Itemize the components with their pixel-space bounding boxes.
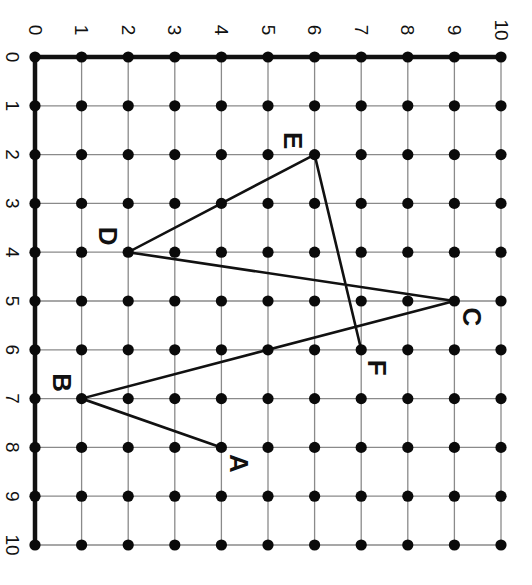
x-tick-label: 7: [2, 393, 23, 404]
grid-dot: [216, 149, 227, 160]
y-tick-label: 1: [71, 25, 92, 36]
grid-dot: [123, 491, 134, 502]
grid-dot: [29, 344, 40, 355]
grid-dot: [216, 539, 227, 550]
grid-dot: [495, 149, 506, 160]
x-tick-label: 8: [2, 442, 23, 453]
grid-dot: [216, 344, 227, 355]
grid-dot: [29, 442, 40, 453]
grid-dot: [123, 393, 134, 404]
grid-dot: [495, 344, 506, 355]
grid-dot: [123, 539, 134, 550]
point-label-a: A: [224, 454, 254, 473]
grid-dot: [262, 539, 273, 550]
grid-dot: [169, 295, 180, 306]
grid-dot: [402, 295, 413, 306]
y-tick-label: 6: [304, 25, 325, 36]
y-tick-label: 2: [118, 25, 139, 36]
grid-dot: [262, 491, 273, 502]
grid-dot: [402, 344, 413, 355]
grid-dot: [495, 247, 506, 258]
grid-dot: [495, 198, 506, 209]
point-label-d: D: [93, 227, 123, 246]
x-tick-label: 10: [2, 534, 23, 555]
coordinate-grid-diagram: 012345678910012345678910 ABCDEF: [0, 0, 532, 585]
grid-dot: [169, 149, 180, 160]
grid-dot: [216, 247, 227, 258]
grid-dot: [262, 149, 273, 160]
grid-dot: [356, 295, 367, 306]
grid-dot: [449, 344, 460, 355]
grid-dot: [262, 247, 273, 258]
grid-dot: [402, 149, 413, 160]
grid-dot: [169, 198, 180, 209]
grid-dot: [402, 100, 413, 111]
grid-dot: [76, 149, 87, 160]
grid-dot: [449, 51, 460, 62]
point-label-e: E: [278, 132, 308, 149]
grid-canvas: 012345678910012345678910 ABCDEF: [0, 0, 532, 585]
x-tick-label: 6: [2, 345, 23, 356]
grid-dot: [216, 491, 227, 502]
grid-dot: [449, 149, 460, 160]
y-tick-label: 8: [397, 25, 418, 36]
grid-dot: [449, 442, 460, 453]
x-tick-label: 2: [2, 149, 23, 160]
grid-dot: [495, 539, 506, 550]
grid-dot: [123, 198, 134, 209]
grid-dot: [169, 442, 180, 453]
grid-dot: [76, 491, 87, 502]
grid-dot: [449, 247, 460, 258]
grid-dot: [449, 491, 460, 502]
grid-dot: [449, 393, 460, 404]
grid-dot: [29, 393, 40, 404]
grid-dot: [402, 442, 413, 453]
grid-dot: [356, 149, 367, 160]
grid-dot: [123, 344, 134, 355]
grid-dot: [76, 51, 87, 62]
grid-dot: [123, 442, 134, 453]
grid-dot: [76, 344, 87, 355]
grid-dot: [495, 100, 506, 111]
y-tick-label: 7: [351, 25, 372, 36]
y-tick-label: 5: [258, 25, 279, 36]
grid-dot: [402, 198, 413, 209]
y-tick-label: 3: [164, 25, 185, 36]
grid-dot: [402, 51, 413, 62]
grid-dot: [495, 442, 506, 453]
grid-dot: [29, 247, 40, 258]
x-tick-label: 0: [2, 52, 23, 63]
grid-dot: [495, 491, 506, 502]
grid-dot: [29, 539, 40, 550]
point-label-f: F: [362, 360, 392, 376]
x-tick-label: 3: [2, 198, 23, 209]
grid-dot: [29, 149, 40, 160]
grid-dot: [402, 491, 413, 502]
grid-dot: [29, 51, 40, 62]
grid-dot: [356, 491, 367, 502]
grid-dot: [262, 51, 273, 62]
grid-dot: [123, 51, 134, 62]
grid-dot: [76, 539, 87, 550]
grid-dot: [309, 491, 320, 502]
y-tick-label: 10: [491, 19, 512, 40]
x-tick-label: 9: [2, 491, 23, 502]
grid-dot: [216, 100, 227, 111]
grid-dot: [356, 442, 367, 453]
grid-dot: [356, 100, 367, 111]
grid-dot: [309, 247, 320, 258]
x-tick-label: 5: [2, 296, 23, 307]
grid-dot: [123, 295, 134, 306]
grid-dot: [169, 539, 180, 550]
y-tick-label: 4: [211, 25, 232, 36]
grid-dot: [169, 393, 180, 404]
grid-dot: [309, 51, 320, 62]
grid-dot: [309, 295, 320, 306]
y-tick-label: 9: [444, 25, 465, 36]
grid-dot: [76, 295, 87, 306]
grid-dot: [262, 198, 273, 209]
grid-dot: [449, 295, 460, 306]
grid-dot: [309, 198, 320, 209]
grid-dot: [262, 442, 273, 453]
grid-dot: [449, 100, 460, 111]
